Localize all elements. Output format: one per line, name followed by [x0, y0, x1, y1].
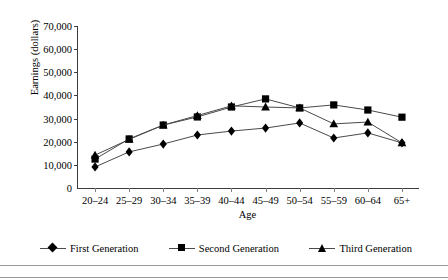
data-point-marker-diamond: [160, 139, 167, 148]
y-axis-tick-mark: [74, 26, 78, 27]
y-axis-tick-label: 0: [67, 183, 72, 194]
footer-rule-top: [0, 265, 448, 266]
legend-marker-diamond-icon: [40, 243, 66, 253]
data-point-marker-square: [330, 101, 337, 108]
data-point-marker-diamond: [194, 130, 201, 139]
x-axis-tick-mark: [95, 188, 96, 192]
x-axis-tick-label: 65+: [394, 195, 410, 206]
data-point-marker-triangle: [91, 151, 100, 159]
y-axis-tick-mark: [74, 95, 78, 96]
legend-label: First Generation: [70, 243, 139, 254]
x-axis-tick-label: 30–34: [150, 195, 176, 206]
data-point-marker-diamond: [91, 162, 98, 171]
legend-item[interactable]: Second Generation: [169, 243, 279, 254]
y-axis-tick-mark: [74, 119, 78, 120]
x-axis-tick-label: 55–59: [321, 195, 347, 206]
legend-item[interactable]: First Generation: [40, 243, 139, 254]
x-axis-tick-mark: [129, 188, 130, 192]
data-point-marker-diamond: [364, 128, 371, 137]
y-axis-tick-label: 20,000: [43, 136, 72, 147]
x-axis-tick-label: 40–44: [218, 195, 244, 206]
data-point-marker-square: [398, 114, 405, 121]
y-axis-tick-mark: [74, 72, 78, 73]
x-axis-tick-mark: [402, 188, 403, 192]
x-axis-tick-mark: [197, 188, 198, 192]
y-axis-tick-label: 30,000: [43, 113, 72, 124]
data-point-marker-triangle: [363, 118, 372, 126]
x-axis-tick-mark: [266, 188, 267, 192]
series-line: [95, 106, 402, 155]
legend-item[interactable]: Third Generation: [309, 243, 412, 254]
data-point-marker-square: [364, 106, 371, 113]
earnings-by-age-line-chart: Earnings (dollars) 010,00020,00030,00040…: [0, 0, 448, 280]
y-axis-tick-label: 60,000: [43, 44, 72, 55]
x-axis-tick-label: 20–24: [82, 195, 108, 206]
legend-label: Second Generation: [199, 243, 279, 254]
x-axis-tick-mark: [300, 188, 301, 192]
x-axis-tick-label: 35–39: [184, 195, 210, 206]
data-point-marker-diamond: [262, 123, 269, 132]
x-axis-tick-label: 60–64: [355, 195, 381, 206]
data-point-marker-diamond: [296, 118, 303, 127]
chart-legend: First GenerationSecond GenerationThird G…: [40, 240, 412, 256]
x-axis-tick-label: 45–49: [252, 195, 278, 206]
footer-rule-bottom: [0, 277, 448, 278]
data-point-marker-diamond: [228, 126, 235, 135]
y-axis-tick-label: 40,000: [43, 90, 72, 101]
series-lines-svg: [78, 26, 419, 188]
y-axis-tick-mark: [74, 49, 78, 50]
y-axis-title: Earnings (dollars): [29, 0, 40, 138]
legend-marker-square-icon: [169, 243, 195, 253]
series-line: [95, 123, 402, 167]
x-axis-tick-label: 25–29: [116, 195, 142, 206]
y-axis-tick-label: 70,000: [43, 21, 72, 32]
plot-area: 010,00020,00030,00040,00050,00060,00070,…: [77, 26, 419, 189]
data-point-marker-diamond: [330, 133, 337, 142]
y-axis-tick-label: 50,000: [43, 67, 72, 78]
legend-marker-triangle-icon: [309, 243, 335, 253]
y-axis-tick-mark: [74, 142, 78, 143]
series-line: [95, 99, 402, 159]
x-axis-title: Age: [77, 209, 418, 220]
x-axis-tick-label: 50–54: [287, 195, 313, 206]
y-axis-tick-label: 10,000: [43, 159, 72, 170]
x-axis-tick-mark: [368, 188, 369, 192]
x-axis-tick-mark: [334, 188, 335, 192]
data-point-marker-diamond: [126, 147, 133, 156]
data-point-marker-square: [262, 95, 269, 102]
y-axis-tick-mark: [74, 165, 78, 166]
x-axis-tick-mark: [231, 188, 232, 192]
legend-label: Third Generation: [339, 243, 412, 254]
x-axis-tick-mark: [163, 188, 164, 192]
